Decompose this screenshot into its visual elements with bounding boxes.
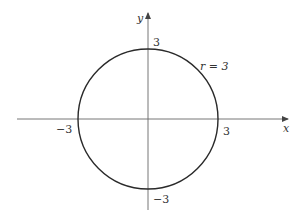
- y-tick-positive: 3: [153, 36, 160, 49]
- radius-label: r = 3: [200, 60, 228, 73]
- x-tick-positive: 3: [223, 125, 230, 138]
- circle-diagram: x y 3 −3 −3 3 r = 3: [0, 0, 301, 224]
- y-axis-label: y: [136, 12, 144, 25]
- y-tick-negative: −3: [153, 193, 169, 206]
- x-axis-label: x: [283, 122, 290, 135]
- radius-label-text: r = 3: [200, 60, 228, 73]
- x-tick-negative: −3: [56, 123, 72, 136]
